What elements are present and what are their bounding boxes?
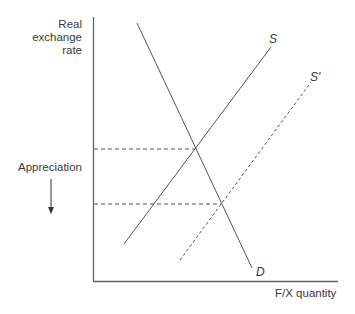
x-axis-label: F/X quantity <box>275 287 336 300</box>
s-curve-label: S <box>269 33 277 46</box>
y-axis-label-line-1: Real <box>32 18 82 31</box>
demand-curve-d <box>137 23 252 268</box>
arrow-head-icon <box>48 207 54 214</box>
y-axis-label-line-3: rate <box>32 44 82 57</box>
supply-curve-s-prime <box>180 82 311 260</box>
s-prime-curve-label: S' <box>310 71 320 84</box>
y-axis-label: Real exchange rate <box>32 18 82 57</box>
d-curve-label: D <box>256 266 265 279</box>
appreciation-label: Appreciation <box>18 161 82 174</box>
y-axis-label-line-2: exchange <box>32 31 82 44</box>
supply-curve-s <box>124 47 271 244</box>
